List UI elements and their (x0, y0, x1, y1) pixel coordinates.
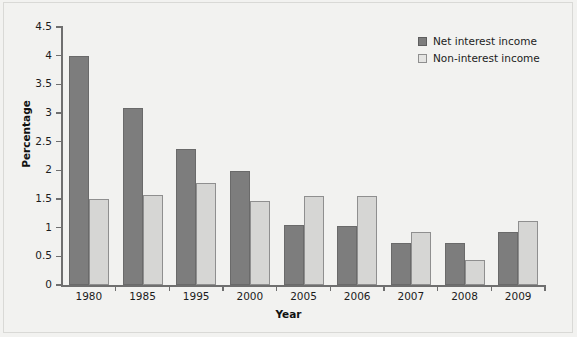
x-axis-line (61, 285, 546, 287)
chart-figure: 00.511.522.533.544.5 1980198519952000200… (0, 0, 577, 337)
legend-swatch-icon-non-interest-income (418, 54, 427, 63)
legend-label-net-interest-income: Net interest income (433, 36, 537, 47)
bar-2000-net-interest-income (230, 171, 250, 285)
bar-2007-non-interest-income (411, 232, 431, 285)
bar-2008-net-interest-income (445, 243, 465, 285)
y-axis-title: Percentage (20, 100, 32, 168)
x-axis-label-1980: 1980 (64, 291, 114, 302)
x-axis-tick (437, 286, 438, 291)
bar-2008-non-interest-income (465, 260, 485, 285)
bar-1995-non-interest-income (196, 183, 216, 285)
bar-1985-non-interest-income (143, 195, 163, 285)
bar-2006-net-interest-income (337, 226, 357, 285)
x-axis-label-2009: 2009 (493, 291, 543, 302)
x-axis-label-1995: 1995 (171, 291, 221, 302)
x-axis-label-2006: 2006 (332, 291, 382, 302)
bar-1980-non-interest-income (89, 199, 109, 285)
bar-2009-non-interest-income (518, 221, 538, 285)
y-axis-tick-label: 0 (14, 279, 52, 290)
x-axis-tick (330, 286, 331, 291)
y-axis-tick-label: 1 (14, 222, 52, 233)
bar-1980-net-interest-income (69, 56, 89, 285)
bar-1995-net-interest-income (176, 149, 196, 285)
x-axis-label-1985: 1985 (118, 291, 168, 302)
x-axis-tick (222, 286, 223, 291)
y-axis-tick-label: 4 (14, 50, 52, 61)
legend-item-non-interest-income: Non-interest income (418, 51, 540, 66)
y-axis-tick-label: 3.5 (14, 78, 52, 89)
x-axis-label-2008: 2008 (440, 291, 490, 302)
x-axis-tick (383, 286, 384, 291)
bar-2007-net-interest-income (391, 243, 411, 285)
y-axis-tick-label: 4.5 (14, 21, 52, 32)
x-axis-tick (115, 286, 116, 291)
bar-2009-net-interest-income (498, 232, 518, 285)
bar-2006-non-interest-income (357, 196, 377, 285)
x-axis-label-2007: 2007 (386, 291, 436, 302)
y-axis-tick-label: 1.5 (14, 193, 52, 204)
x-axis-tick (491, 286, 492, 291)
legend-swatch-icon-net-interest-income (418, 37, 427, 46)
x-axis-tick (276, 286, 277, 291)
x-axis-tick (544, 286, 545, 291)
x-axis-label-2000: 2000 (225, 291, 275, 302)
bar-1985-net-interest-income (123, 108, 143, 285)
y-axis-tick-label: 0.5 (14, 250, 52, 261)
x-axis-tick (169, 286, 170, 291)
bar-2005-non-interest-income (304, 196, 324, 285)
bar-2005-net-interest-income (284, 225, 304, 285)
legend-label-non-interest-income: Non-interest income (433, 53, 540, 64)
x-axis-label-2005: 2005 (279, 291, 329, 302)
bar-2000-non-interest-income (250, 201, 270, 285)
x-axis-title: Year (0, 308, 577, 320)
legend-item-net-interest-income: Net interest income (418, 34, 540, 49)
chart-legend: Net interest income Non-interest income (418, 34, 540, 68)
